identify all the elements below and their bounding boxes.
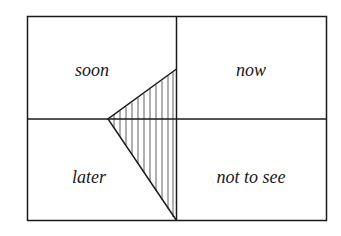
label-not-to-see: not to see (217, 167, 286, 187)
hatched-triangle (108, 69, 177, 221)
label-later: later (72, 167, 107, 187)
label-soon: soon (75, 60, 109, 80)
triangle-outline (108, 69, 177, 221)
quadrant-diagram: soon now later not to see (0, 0, 341, 236)
label-now: now (236, 60, 266, 80)
